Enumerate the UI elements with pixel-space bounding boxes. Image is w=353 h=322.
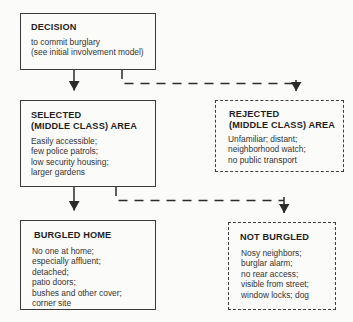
node-rejected-area-body: Unfamiliar; distant; neighborhood watch;… (228, 134, 306, 165)
node-selected-area-title: SELECTED (MIDDLE CLASS) AREA (31, 110, 137, 132)
node-selected-area: SELECTED (MIDDLE CLASS) AREA Easily acce… (20, 100, 156, 187)
node-burgled-home-body: No one at home; especially affluent; det… (32, 246, 122, 308)
node-not-burgled-body: Nosy neighbors; burglar alarm; no rear a… (241, 248, 309, 300)
node-burgled-home: BURGLED HOME No one at home; especially … (20, 220, 156, 310)
connector-decision-to-rejected (122, 70, 296, 91)
node-decision: DECISION to commit burglary (see initial… (20, 13, 156, 70)
node-not-burgled-title: NOT BURGLED (240, 232, 309, 243)
node-decision-body: to commit burglary (see initial involvem… (31, 37, 144, 58)
node-burgled-home-title: BURGLED HOME (34, 230, 111, 241)
node-decision-title: DECISION (31, 22, 77, 33)
node-rejected-area: REJECTED (MIDDLE CLASS) AREA Unfamiliar;… (215, 100, 344, 172)
node-rejected-area-title: REJECTED (MIDDLE CLASS) AREA (229, 109, 335, 131)
node-not-burgled: NOT BURGLED Nosy neighbors; burglar alar… (228, 222, 336, 310)
node-selected-area-body: Easily accessible; few police patrols; l… (31, 136, 109, 178)
diagram-canvas: DECISION to commit burglary (see initial… (0, 0, 353, 322)
connector-selected-to-not-burgled (116, 187, 284, 213)
